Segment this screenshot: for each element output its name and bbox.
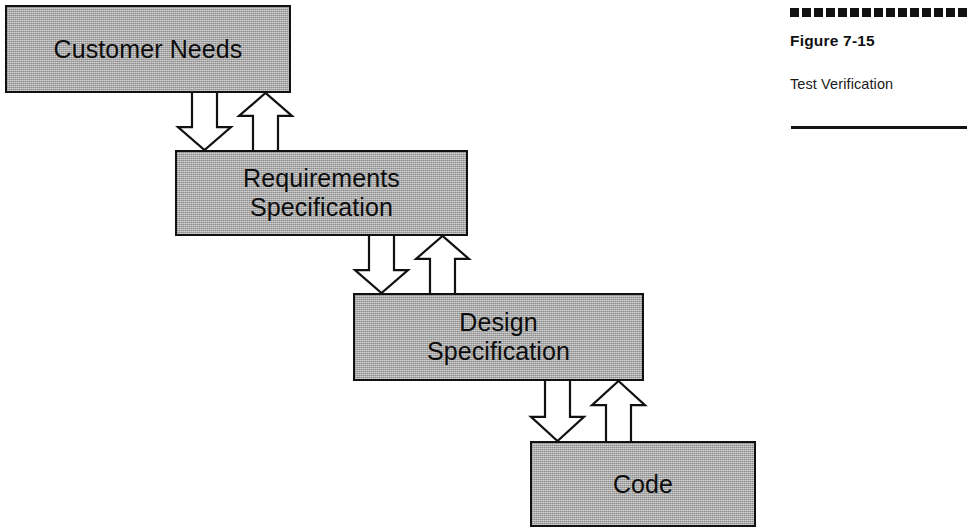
flow-down-arrow-shape[interactable]	[531, 380, 584, 441]
node-code[interactable]: Code	[530, 441, 756, 527]
verify-up-arrow-shape[interactable]	[416, 236, 469, 294]
connector-customer-needs-to-requirements	[175, 92, 295, 151]
figure-number: Figure 7-15	[790, 32, 968, 50]
waterfall-diagram: Customer Needs RequirementsSpecification…	[0, 0, 780, 527]
node-customer-needs[interactable]: Customer Needs	[5, 5, 291, 93]
node-customer-needs-label: Customer Needs	[54, 35, 243, 64]
flow-down-arrow-shape[interactable]	[178, 92, 231, 150]
verify-up-arrow-shape[interactable]	[239, 93, 292, 151]
figure-page: Customer Needs RequirementsSpecification…	[0, 0, 968, 527]
connector-design-to-code	[528, 380, 648, 442]
dotted-square-rule-icon	[790, 8, 968, 17]
node-design-specification-label: DesignSpecification	[427, 308, 570, 366]
figure-title: Test Verification	[790, 76, 968, 92]
horizontal-rule-icon	[791, 126, 967, 129]
node-requirements-specification[interactable]: RequirementsSpecification	[175, 150, 468, 236]
connector-requirements-to-design	[352, 235, 472, 294]
node-design-specification[interactable]: DesignSpecification	[353, 293, 644, 381]
verify-up-arrow-shape[interactable]	[592, 381, 645, 442]
figure-caption-column: Figure 7-15 Test Verification	[790, 0, 968, 527]
node-code-label: Code	[613, 470, 673, 499]
node-requirements-specification-label: RequirementsSpecification	[243, 164, 400, 222]
flow-down-arrow-shape[interactable]	[355, 235, 408, 293]
